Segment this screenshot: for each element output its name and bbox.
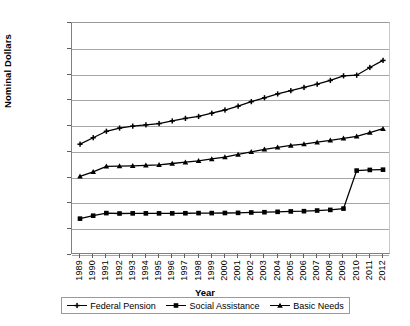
x-axis-tick-label: 1992: [115, 260, 124, 281]
plot-inner: [72, 23, 389, 253]
series-basic-needs: [77, 126, 386, 179]
square-marker-icon: [166, 301, 186, 310]
x-axis-tick-label: 2008: [325, 260, 334, 281]
data-point-marker: [354, 168, 359, 173]
series-line: [80, 129, 383, 177]
x-axis-tick-label: 2006: [299, 260, 308, 281]
series-federal-pension: [77, 58, 385, 147]
data-point-marker: [223, 211, 228, 216]
x-axis-tick-mark: [237, 254, 238, 258]
x-axis-tick-label: 2000: [220, 260, 229, 281]
x-axis-tick-mark: [119, 254, 120, 258]
x-axis-tick-mark: [132, 254, 133, 258]
series-social-assistance: [78, 167, 386, 221]
data-point-marker: [328, 208, 333, 213]
data-point-marker: [381, 167, 386, 172]
x-axis-tick-label: 2002: [246, 260, 255, 281]
data-point-marker: [78, 216, 83, 221]
legend-label: Social Assistance: [189, 301, 259, 311]
data-point-marker: [380, 126, 386, 131]
legend-item-basic-needs[interactable]: Basic Needs: [270, 301, 344, 311]
x-axis-tick-label: 1995: [154, 260, 163, 281]
x-axis-tick-label: 2005: [286, 260, 295, 281]
data-point-marker: [315, 208, 320, 213]
data-point-marker: [157, 211, 162, 216]
x-axis-tick-mark: [145, 254, 146, 258]
data-point-marker: [117, 125, 122, 130]
data-point-marker: [104, 211, 109, 216]
x-axis-tick-mark: [342, 254, 343, 258]
x-axis-tick-mark: [105, 254, 106, 258]
data-point-marker: [302, 209, 307, 214]
x-axis-tick-label: 2010: [352, 260, 361, 281]
data-point-marker: [236, 211, 241, 216]
x-axis-tick-mark: [158, 254, 159, 258]
data-point-marker: [77, 142, 82, 147]
legend-item-social-assistance[interactable]: Social Assistance: [166, 301, 259, 311]
x-axis-tick-mark: [329, 254, 330, 258]
data-point-marker: [288, 88, 293, 93]
series-layer: [72, 23, 391, 255]
triangle-marker-icon: [270, 301, 290, 310]
x-axis-tick-label: 1998: [194, 260, 203, 281]
data-point-marker: [170, 211, 175, 216]
x-axis-tick-mark: [198, 254, 199, 258]
data-point-marker: [341, 73, 346, 78]
x-axis-tick-mark: [316, 254, 317, 258]
x-axis-tick-mark: [263, 254, 264, 258]
data-point-marker: [196, 114, 201, 119]
chart-legend: Federal PensionSocial AssistanceBasic Ne…: [61, 297, 350, 314]
data-point-marker: [170, 118, 175, 123]
legend-label: Federal Pension: [90, 301, 156, 311]
x-axis-tick-mark: [171, 254, 172, 258]
data-point-marker: [143, 122, 148, 127]
x-axis-tick-mark: [382, 254, 383, 258]
x-axis-tick-mark: [290, 254, 291, 258]
data-point-marker: [183, 211, 188, 216]
x-axis-tick-label: 1996: [167, 260, 176, 281]
cross-marker-icon: [67, 301, 87, 310]
x-axis-tick-mark: [277, 254, 278, 258]
data-point-marker: [249, 99, 254, 104]
data-point-marker: [209, 111, 214, 116]
data-point-marker: [328, 78, 333, 83]
data-point-marker: [130, 211, 135, 216]
data-point-marker: [144, 211, 149, 216]
x-axis-tick-mark: [211, 254, 212, 258]
data-point-marker: [288, 209, 293, 214]
data-point-marker: [262, 95, 267, 100]
series-line: [80, 170, 383, 219]
x-axis-tick-mark: [79, 254, 80, 258]
x-axis-tick-mark: [184, 254, 185, 258]
legend-label: Basic Needs: [293, 301, 344, 311]
x-axis-tick-label: 1994: [141, 260, 150, 281]
x-axis-tick-mark: [356, 254, 357, 258]
data-point-marker: [341, 206, 346, 211]
x-axis-tick-mark: [250, 254, 251, 258]
x-axis-tick-label: 1993: [128, 260, 137, 281]
data-point-marker: [249, 210, 254, 215]
x-axis-tick-label: 2012: [378, 260, 387, 281]
data-point-marker: [275, 210, 280, 215]
y-axis-title: Nominal Dollars: [2, 0, 13, 108]
data-point-marker: [91, 213, 96, 218]
x-axis-tick-label: 1999: [207, 260, 216, 281]
x-axis-tick-label: 2003: [259, 260, 268, 281]
data-point-marker: [183, 116, 188, 121]
x-axis-tick-label: 1990: [88, 260, 97, 281]
data-point-marker: [104, 129, 109, 134]
data-point-marker: [315, 82, 320, 87]
x-axis-tick-mark: [303, 254, 304, 258]
data-point-marker: [235, 104, 240, 109]
x-axis-tick-mark: [92, 254, 93, 258]
data-point-marker: [91, 135, 96, 140]
x-axis-tick-label: 1997: [180, 260, 189, 281]
data-point-marker: [368, 168, 373, 173]
legend-item-federal-pension[interactable]: Federal Pension: [67, 301, 156, 311]
data-point-marker: [117, 211, 122, 216]
x-axis-tick-label: 2004: [273, 260, 282, 281]
data-point-marker: [196, 211, 201, 216]
plot-area: [71, 22, 390, 254]
x-axis-tick-label: 1989: [75, 260, 84, 281]
x-axis-tick-label: 2011: [365, 260, 374, 280]
